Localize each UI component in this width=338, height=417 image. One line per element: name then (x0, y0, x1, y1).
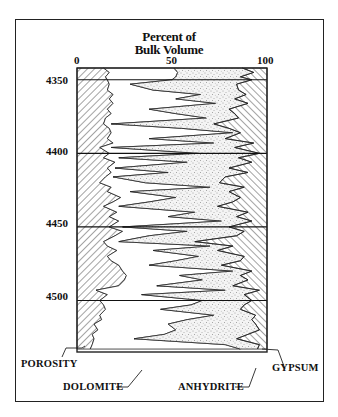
label-anhydrite: ANHYDRITE (178, 381, 244, 392)
label-gypsum: GYPSUM (272, 362, 319, 373)
label-porosity: POROSITY (21, 358, 77, 369)
lithology-plot (0, 0, 338, 417)
label-dolomite: DOLOMITE (63, 381, 124, 392)
